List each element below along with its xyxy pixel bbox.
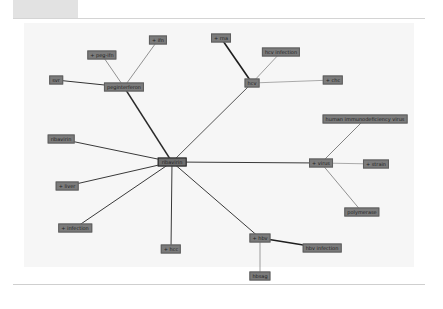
node-strain[interactable]: + strain	[363, 160, 389, 169]
edge-hcv-chc	[252, 80, 333, 83]
edge-ribavirin-liver	[67, 162, 172, 186]
node-center-ribavirin[interactable]: ribavirin	[158, 158, 187, 167]
node-peginterferon[interactable]: peginterferon	[104, 83, 144, 92]
edge-ribavirin-peginterferon	[124, 87, 172, 162]
edge-peginterferon-ifn	[124, 40, 158, 87]
node-ifn[interactable]: + ifn	[149, 36, 167, 45]
edge-ribavirin-infection	[75, 162, 172, 228]
edge-virus-polymerase	[321, 163, 362, 212]
node-liver[interactable]: + liver	[56, 182, 79, 191]
node-svr[interactable]: svr	[49, 76, 63, 85]
node-polymerase[interactable]: polymerase	[344, 208, 379, 217]
node-peg-ifn[interactable]: + peg-ifn	[87, 51, 116, 60]
node-infection[interactable]: + infection	[58, 224, 92, 233]
node-rna[interactable]: + rna	[211, 34, 231, 43]
node-hcc[interactable]: + hcc	[161, 245, 181, 254]
node-virus[interactable]: + virus	[309, 159, 333, 168]
node-hbv[interactable]: + hbv	[249, 234, 270, 243]
node-hbv-infection[interactable]: hbv infection	[303, 244, 342, 253]
node-hbsag[interactable]: hbsag	[249, 272, 270, 281]
edge-virus-hiv-virus	[321, 119, 365, 163]
edge-ribavirin-hcc	[171, 162, 172, 249]
edge-ribavirin-ribavirin-node	[61, 139, 172, 162]
edge-ribavirin-virus	[172, 162, 321, 163]
edge-ribavirin-hcv	[172, 83, 252, 162]
graph-edges	[0, 0, 443, 309]
node-hcv-infection-top[interactable]: hcv infection	[262, 48, 300, 57]
node-hiv-virus[interactable]: human immunodeficiency virus	[323, 115, 408, 124]
edge-ribavirin-hbv	[172, 162, 260, 238]
edge-hcv-rna	[221, 38, 252, 83]
node-chc[interactable]: + chc	[323, 76, 343, 85]
node-ribavirin-node[interactable]: ribavirin	[48, 135, 75, 144]
node-hcv[interactable]: hcv	[245, 79, 260, 88]
